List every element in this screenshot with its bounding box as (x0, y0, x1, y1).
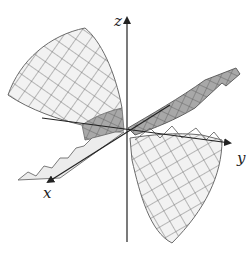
surface-lower-left-edge (18, 132, 124, 180)
y-axis-label: y (237, 151, 245, 166)
x-axis-label: x (43, 186, 51, 201)
z-axis-label: z (114, 14, 122, 29)
surface-plot (0, 0, 251, 258)
surface-upper-left-lobe (8, 28, 122, 125)
surface-upper-right-ridge (128, 68, 240, 135)
surface-lower-right-lobe (130, 134, 222, 243)
